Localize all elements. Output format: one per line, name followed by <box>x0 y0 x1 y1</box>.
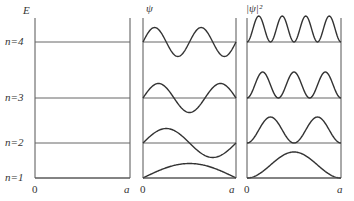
level-label-n2: n=2 <box>5 136 24 148</box>
psi-x-end-label: a <box>229 183 235 195</box>
level-labels: n=1 n=2 n=3 n=4 <box>5 35 24 183</box>
psi-squared-curve-n4 <box>247 16 341 42</box>
psi-squared-curve-n1 <box>247 152 341 178</box>
psi-curve-n1 <box>143 164 236 179</box>
level-label-n4: n=4 <box>5 35 24 47</box>
level-label-n1: n=1 <box>5 171 23 183</box>
probability-density-panel: |ψ|² 0 a <box>244 2 343 195</box>
psi-axis-label: ψ <box>146 2 153 14</box>
particle-in-box-diagram: E n=1 n=2 n=3 n=4 0 a ψ 0 a |ψ|² 0 a <box>0 0 354 201</box>
energy-axis-label: E <box>22 4 30 16</box>
psi-squared-x-end-label: a <box>337 183 343 195</box>
energy-x-end-label: a <box>124 183 130 195</box>
probability-density-curves <box>247 16 341 178</box>
psi-squared-axis-label: |ψ|² <box>246 2 263 14</box>
energy-levels <box>35 42 130 178</box>
level-label-n3: n=3 <box>5 91 24 103</box>
wavefunction-panel: ψ 0 a <box>140 2 236 195</box>
energy-x-origin-label: 0 <box>32 183 38 195</box>
psi-squared-curve-n2 <box>247 117 341 143</box>
wavefunction-curves <box>143 28 236 179</box>
psi-squared-x-origin-label: 0 <box>244 183 250 195</box>
psi-squared-curve-n3 <box>247 72 341 98</box>
psi-x-origin-label: 0 <box>140 183 146 195</box>
energy-panel: E n=1 n=2 n=3 n=4 0 a <box>5 4 130 195</box>
